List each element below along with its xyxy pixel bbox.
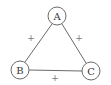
edge-sign-a-c: + bbox=[75, 33, 83, 43]
node-c: C bbox=[82, 62, 100, 80]
node-b-label: B bbox=[16, 65, 23, 76]
triangle-diagram: + + + A B C bbox=[0, 0, 111, 85]
edge-sign-b-c: + bbox=[51, 73, 59, 83]
edge-a-c bbox=[62, 24, 86, 63]
node-a-label: A bbox=[52, 11, 61, 22]
diagram-svg: + + + A B C bbox=[0, 0, 111, 85]
node-a: A bbox=[48, 7, 66, 25]
node-b: B bbox=[11, 61, 29, 79]
edge-b-c bbox=[29, 70, 82, 71]
edge-a-b bbox=[25, 24, 52, 62]
edge-sign-a-b: + bbox=[27, 33, 35, 43]
node-c-label: C bbox=[87, 66, 95, 77]
